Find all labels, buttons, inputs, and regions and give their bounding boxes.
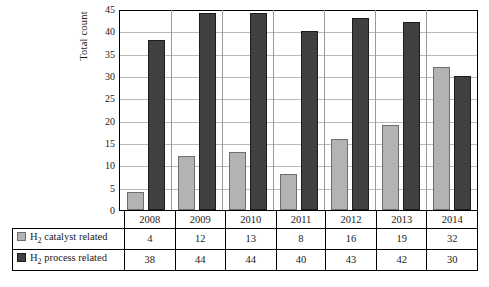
data-table-body: 2008200920102011201220132014H2 catalyst … — [13, 211, 478, 271]
y-tick-label: 35 — [105, 50, 115, 60]
bar-group — [222, 10, 273, 210]
bar-series-container — [120, 10, 477, 210]
y-tick-label: 45 — [105, 5, 115, 15]
legend-entry: H2 catalyst related — [13, 229, 125, 250]
bar — [280, 174, 297, 210]
table-column-header: 2008 — [125, 211, 176, 229]
y-tick-label: 20 — [105, 117, 115, 127]
table-cell-value: 32 — [427, 229, 478, 250]
table-column-header: 2014 — [427, 211, 478, 229]
bar — [382, 125, 399, 210]
table-column-header: 2009 — [175, 211, 226, 229]
table-cell-value: 44 — [226, 250, 277, 271]
bar-group — [375, 10, 426, 210]
bar — [301, 31, 318, 210]
legend-swatch-icon — [17, 253, 26, 262]
legend-entry: H2 process related — [13, 250, 125, 271]
bar — [454, 76, 471, 210]
bar-group — [426, 10, 477, 210]
table-row: H2 catalyst related412138161932 — [13, 229, 478, 250]
bar-group — [324, 10, 375, 210]
table-row: H2 process related38444440434230 — [13, 250, 478, 271]
table-column-header: 2011 — [276, 211, 326, 229]
y-tick-label: 25 — [105, 94, 115, 104]
table-cell-value: 16 — [326, 229, 377, 250]
bar — [178, 156, 195, 210]
bar — [148, 40, 165, 210]
table-cell-value: 30 — [427, 250, 478, 271]
bar — [352, 18, 369, 210]
table-column-header: 2010 — [226, 211, 277, 229]
table-cell-value: 38 — [125, 250, 176, 271]
legend-label: H2 catalyst related — [30, 231, 107, 242]
plot-frame — [119, 10, 478, 211]
chart-figure: Total count 051015202530354045 200820092… — [0, 0, 489, 287]
bar — [199, 13, 216, 210]
table-cell-value: 40 — [276, 250, 326, 271]
bar-group — [120, 10, 171, 210]
bar — [433, 67, 450, 210]
legend-label-subscript: 2 — [38, 236, 42, 245]
bar — [229, 152, 246, 210]
y-tick-label: 15 — [105, 139, 115, 149]
y-axis-tick-labels: 051015202530354045 — [95, 10, 117, 211]
table-cell-value: 43 — [326, 250, 377, 271]
legend-label: H2 process related — [30, 252, 107, 263]
bar-group — [171, 10, 222, 210]
legend-swatch-icon — [17, 232, 26, 241]
bar — [250, 13, 267, 210]
table-cell-value: 44 — [175, 250, 226, 271]
plot-area: 051015202530354045 — [95, 10, 478, 211]
bar-group — [273, 10, 324, 210]
table-cell-value: 4 — [125, 229, 176, 250]
table-cell-value: 42 — [376, 250, 427, 271]
bar — [127, 192, 144, 210]
bar — [331, 139, 348, 210]
table-cell-value: 8 — [276, 229, 326, 250]
data-table: 2008200920102011201220132014H2 catalyst … — [12, 211, 478, 271]
legend-label-subscript: 2 — [38, 257, 42, 266]
y-axis-title: Total count — [78, 0, 89, 96]
table-row: 2008200920102011201220132014 — [13, 211, 478, 229]
y-tick-label: 10 — [105, 161, 115, 171]
table-cell-value: 12 — [175, 229, 226, 250]
table-cell-value: 13 — [226, 229, 277, 250]
table-column-header: 2013 — [376, 211, 427, 229]
table-cell-value: 19 — [376, 229, 427, 250]
bar — [403, 22, 420, 210]
y-tick-label: 40 — [105, 27, 115, 37]
table-column-header: 2012 — [326, 211, 377, 229]
table-corner-cell — [13, 211, 125, 229]
y-tick-label: 5 — [110, 184, 115, 194]
y-tick-label: 30 — [105, 72, 115, 82]
